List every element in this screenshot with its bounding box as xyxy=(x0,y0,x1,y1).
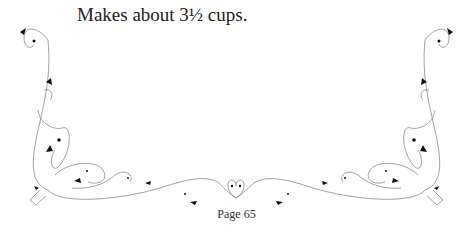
page-number: Page 65 xyxy=(0,207,473,222)
leaf-icons xyxy=(20,28,453,205)
decorative-flourish-border xyxy=(0,0,473,227)
left-top-curl xyxy=(24,29,48,47)
